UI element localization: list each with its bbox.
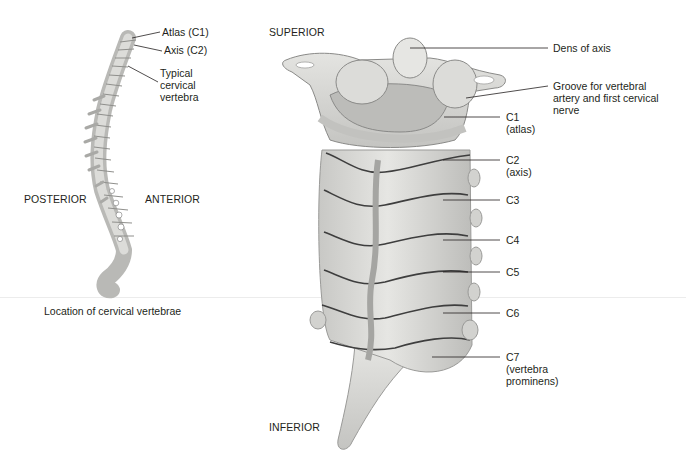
label-groove-vertebral-artery: Groove for vertebral artery and first ce… bbox=[553, 80, 659, 116]
label-typical-cervical-vertebra: Typical cervical vertebra bbox=[160, 67, 199, 103]
orientation-posterior: POSTERIOR bbox=[24, 193, 87, 205]
illustration-canvas bbox=[0, 0, 686, 464]
orientation-inferior: INFERIOR bbox=[269, 421, 320, 433]
orientation-anterior: ANTERIOR bbox=[145, 193, 200, 205]
label-dens-of-axis: Dens of axis bbox=[553, 42, 611, 54]
label-c6: C6 bbox=[506, 307, 519, 319]
label-c5: C5 bbox=[506, 266, 519, 278]
label-c1-atlas: C1 (atlas) bbox=[506, 111, 535, 135]
label-axis-c2: Axis (C2) bbox=[164, 44, 207, 56]
full-spine-illustration bbox=[85, 32, 162, 290]
label-atlas-c1: Atlas (C1) bbox=[162, 26, 209, 38]
label-c7-vertebra-prominens: C7 (vertebra prominens) bbox=[506, 351, 559, 387]
label-c2-axis: C2 (axis) bbox=[506, 154, 532, 178]
label-c3: C3 bbox=[506, 194, 519, 206]
orientation-superior: SUPERIOR bbox=[269, 26, 325, 38]
label-c4: C4 bbox=[506, 234, 519, 246]
figure-caption: Location of cervical vertebrae bbox=[44, 305, 181, 317]
